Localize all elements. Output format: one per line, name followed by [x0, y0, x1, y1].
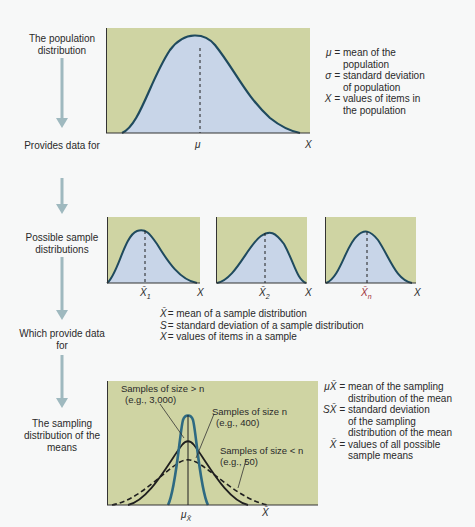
sample-legend: X̄= mean of a sample distribution S= sta…: [160, 308, 364, 343]
population-chart: [106, 28, 310, 133]
annotation-large-n: Samples of size > n(e.g., 3,000): [121, 383, 204, 405]
annotation-small-n: Samples of size < n(e.g., 50): [220, 445, 303, 467]
sample-mean-n-label: X̄n: [361, 287, 372, 300]
mu-xbar-label: μX̄: [181, 509, 191, 522]
annotation-n: Samples of size n(e.g., 400): [212, 406, 287, 428]
population-legend: μ =mean of the population σ =standard de…: [318, 47, 425, 116]
sample-chart-n: [325, 217, 416, 283]
sample-mean-2-label: X̄2: [259, 287, 270, 300]
xbar-axis-label: X̄: [262, 507, 269, 518]
sample-x-2-label: X: [305, 287, 312, 298]
mu-label: μ: [195, 139, 200, 150]
sample-x-1-label: X: [197, 287, 204, 298]
sample-chart-2: [216, 217, 307, 283]
sample-chart-1: [107, 217, 200, 283]
stage-population: The population distribution: [12, 33, 112, 57]
x-axis-label: X: [305, 139, 312, 150]
sample-x-n-label: X: [414, 287, 421, 298]
sampling-legend: μX̄ =mean of the sampling distribution o…: [317, 381, 452, 462]
stage-which-provide: Which provide data for: [12, 328, 112, 352]
stage-provides-data: Provides data for: [22, 140, 102, 152]
stage-possible-samples: Possible sample distributions: [12, 232, 112, 256]
stage-sampling-distribution: The sampling distribution of the means: [22, 418, 102, 454]
sample-mean-1-label: X̄1: [140, 287, 151, 300]
